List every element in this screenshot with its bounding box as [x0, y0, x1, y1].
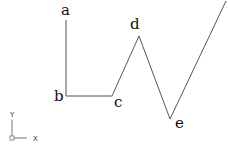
ucs-x-label: X — [33, 135, 38, 143]
point-label-b: b — [54, 87, 64, 105]
point-label-c: c — [114, 93, 122, 111]
point-label-e: e — [175, 114, 184, 132]
drawing-canvas: a b c d e Y X — [0, 0, 228, 149]
ucs-y-label: Y — [9, 111, 15, 119]
ucs-icon: Y X — [9, 111, 38, 143]
polyline-a-b-c-d-e[interactable] — [66, 1, 226, 119]
point-label-a: a — [61, 1, 70, 19]
ucs-origin-box — [10, 136, 14, 140]
point-label-d: d — [130, 15, 140, 33]
diagram-svg: a b c d e Y X — [0, 0, 228, 149]
